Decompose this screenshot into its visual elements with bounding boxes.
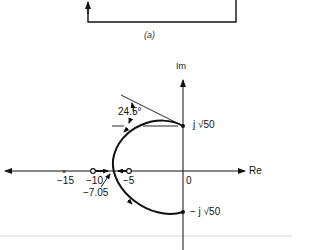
tick-label-minus10: −10 bbox=[86, 176, 103, 186]
crossing-point-upper bbox=[181, 124, 185, 128]
lower-crossing-label: − j √50 bbox=[190, 207, 220, 217]
pole-marker-minus15: × bbox=[62, 168, 66, 175]
tick-label-zero: 0 bbox=[186, 176, 192, 186]
block-diagram-feedback-path bbox=[88, 0, 236, 22]
crossing-point-lower bbox=[181, 210, 185, 214]
root-locus-circle bbox=[113, 121, 183, 214]
caption-a: (a) bbox=[144, 31, 155, 40]
tick-label-minus5: −5 bbox=[123, 176, 134, 186]
svg-text:×: × bbox=[62, 168, 66, 175]
breakaway-label: −7.05 bbox=[83, 188, 108, 198]
zero-marker-minus10 bbox=[91, 169, 96, 174]
imaginary-axis-label: Im bbox=[176, 62, 186, 71]
upper-crossing-label: j √50 bbox=[193, 120, 215, 130]
angle-label: 24.5° bbox=[118, 107, 141, 117]
zero-marker-minus5 bbox=[127, 169, 132, 174]
real-axis-label-text: Re bbox=[249, 166, 262, 176]
tick-label-minus15: −15 bbox=[57, 176, 74, 186]
